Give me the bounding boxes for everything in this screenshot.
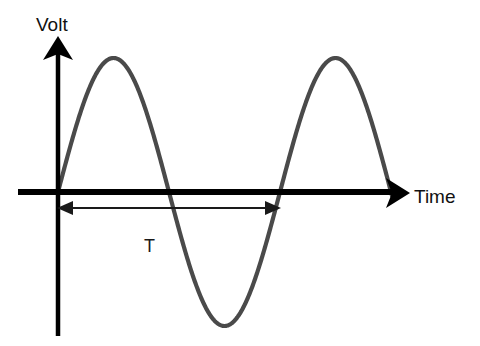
waveform-figure: Volt Time T (0, 0, 480, 346)
time-axis-label: Time (414, 186, 456, 208)
volt-axis-label: Volt (36, 14, 68, 36)
waveform-canvas (0, 0, 480, 346)
period-label: T (144, 236, 155, 257)
